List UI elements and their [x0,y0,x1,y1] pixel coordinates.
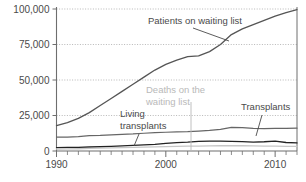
annotation-transplants: Transplants [241,101,291,112]
annotation-deaths-on-the-waiting-list-line2: waiting list [145,96,190,107]
y-tick-label-75000: 75,000 [19,39,50,50]
y-tick-label-50000: 50,000 [19,75,50,86]
annotation-patients-on-waiting-list: Patients on waiting list [148,15,242,26]
x-tick-label-1990: 1990 [45,159,68,170]
x-tick-label-2000: 2000 [155,159,178,170]
x-tick-label-2010: 2010 [264,159,287,170]
annotation-living-transplants-line2: transplants [120,120,167,131]
annotation-deaths-on-the-waiting-list: Deaths on the [146,84,205,95]
y-tick-label-0: 0 [44,146,50,157]
line-chart: 025,00050,00075,000100,000 199020002010 … [0,0,306,182]
y-tick-label-100000: 100,000 [13,4,50,15]
annotation-living-transplants: Living [120,108,145,119]
y-tick-label-25000: 25,000 [19,110,50,121]
chart-figure: 025,00050,00075,000100,000 199020002010 … [0,0,306,182]
